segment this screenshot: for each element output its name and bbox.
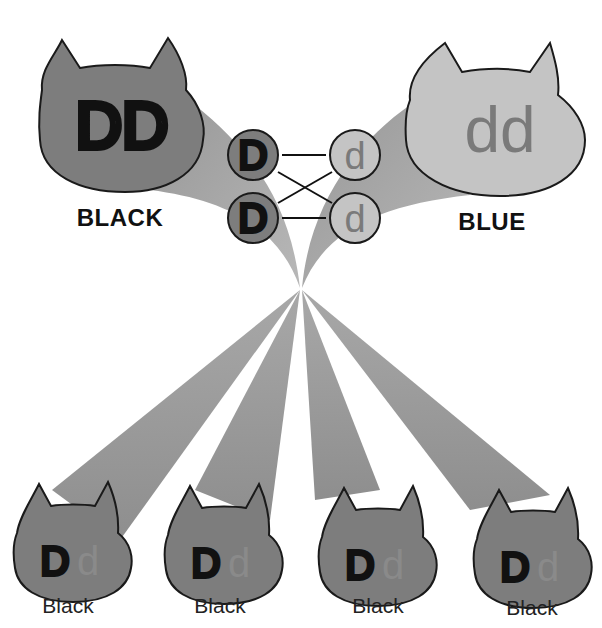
gamete-left-1: D <box>228 130 278 180</box>
gamete-right-1: d <box>330 130 380 180</box>
svg-text:D: D <box>41 539 70 583</box>
parent-label-blue: BLUE <box>432 208 552 236</box>
svg-text:d: d <box>344 198 365 240</box>
beam-offspring-3 <box>302 290 380 500</box>
gamete-left-2: D <box>228 193 278 243</box>
offspring-cat-3: D d <box>319 486 437 606</box>
genetics-diagram: DD dd D D d d D d D d D <box>0 0 602 628</box>
svg-text:D: D <box>501 545 530 589</box>
svg-text:D: D <box>239 196 268 240</box>
svg-text:D: D <box>239 133 268 177</box>
parent-label-black: BLACK <box>60 204 180 232</box>
parent-cat-black: DD <box>39 38 204 192</box>
svg-text:d: d <box>382 543 404 587</box>
svg-text:d: d <box>537 545 559 589</box>
svg-text:d: d <box>344 135 365 177</box>
offspring-cat-4: D d <box>474 488 592 608</box>
parent-genotype-dd-black: DD <box>76 90 168 162</box>
offspring-cat-2: D d <box>165 484 283 604</box>
svg-text:d: d <box>228 541 250 585</box>
svg-text:d: d <box>77 539 99 583</box>
parent-cat-blue: dd <box>406 43 585 196</box>
svg-text:D: D <box>192 541 221 585</box>
svg-text:D: D <box>346 543 375 587</box>
offspring-label-2: Black <box>170 594 270 618</box>
gamete-right-2: d <box>330 193 380 243</box>
offspring-label-3: Black <box>328 594 428 618</box>
offspring-label-1: Black <box>18 594 118 618</box>
offspring-label-4: Black <box>482 596 582 620</box>
parent-genotype-dd-blue: dd <box>464 94 535 166</box>
